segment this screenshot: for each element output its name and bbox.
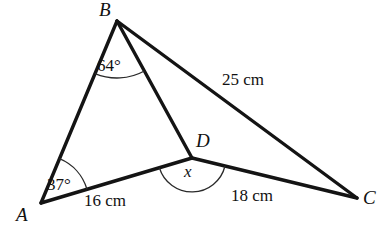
angle-arc-d [159, 166, 225, 192]
vertex-label-b: B [99, 0, 111, 19]
geometry-canvas [0, 0, 392, 232]
angle-label-x: x [184, 163, 192, 180]
angle-label-b: 64° [97, 57, 121, 74]
vertex-label-c: C [363, 188, 376, 207]
geometry-figure: B A C D 64° 37° x 16 cm 18 cm 25 cm [0, 0, 392, 232]
length-label-ad: 16 cm [84, 192, 126, 209]
vertex-label-a: A [16, 205, 28, 224]
angle-label-a: 37° [47, 176, 71, 193]
vertex-label-d: D [196, 131, 210, 150]
segment-bd [117, 21, 192, 158]
segment-bc [117, 21, 357, 198]
length-label-bc: 25 cm [222, 71, 264, 88]
length-label-dc: 18 cm [231, 187, 273, 204]
